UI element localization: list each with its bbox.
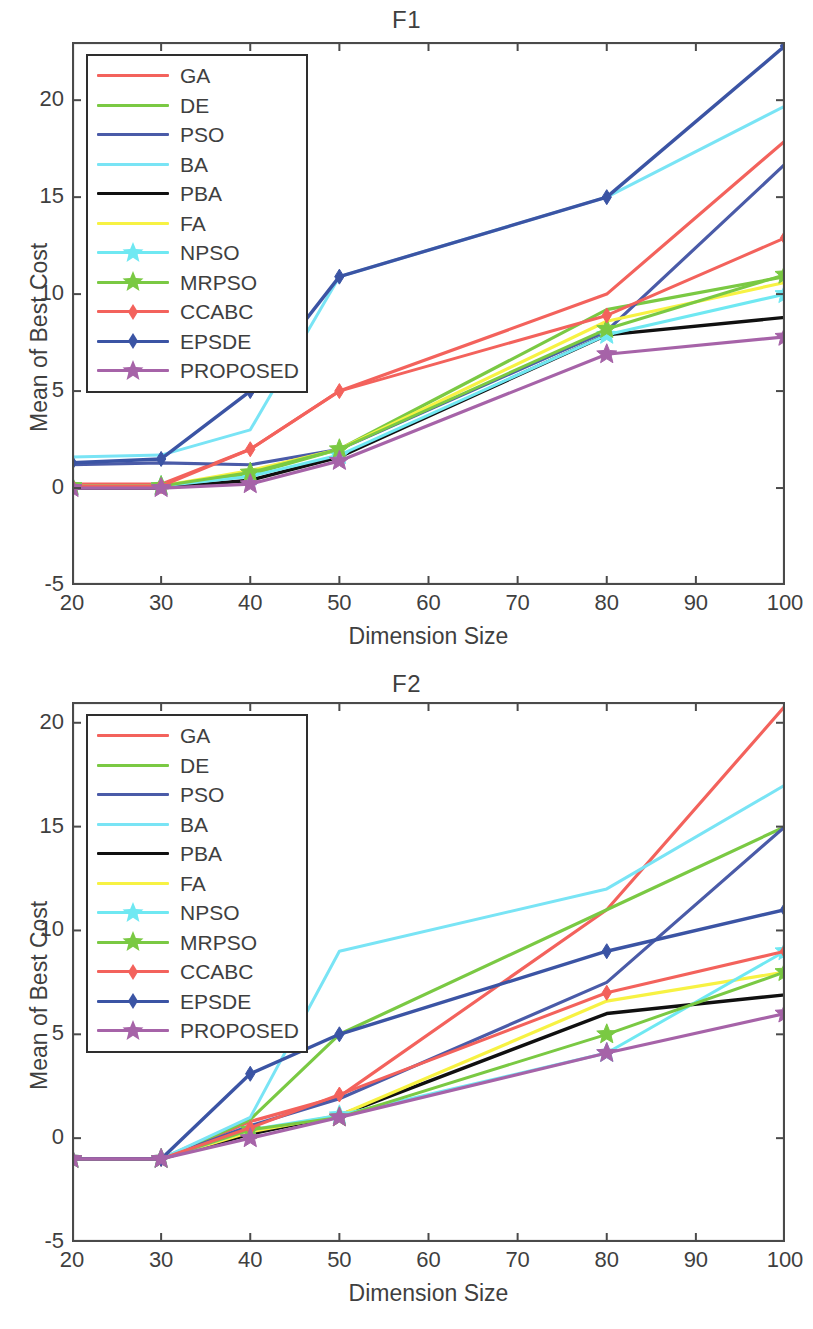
y-axis-tick-label: 15 [14,813,64,839]
legend-label: EPSDE [180,331,251,352]
legend-item-mrpso[interactable]: MRPSO [88,268,306,298]
legend-swatch-proposed [97,360,169,382]
legend-swatch-pba [97,183,169,205]
legend-label: EPSDE [180,991,251,1012]
legend-item-ccabc[interactable]: CCABC [88,297,306,327]
legend-label: DE [180,755,209,776]
star-icon [121,930,145,954]
x-axis-tick-label: 80 [577,590,637,616]
legend-swatch-mrpso [97,931,169,953]
legend-label: GA [180,725,210,746]
legend-item-ga[interactable]: GA [88,61,306,91]
legend-item-fa[interactable]: FA [88,209,306,239]
legend-item-epsde[interactable]: EPSDE [88,987,306,1017]
legend-item-epsde[interactable]: EPSDE [88,327,306,357]
y-axis-label: Mean of Best Cost [26,242,53,431]
x-axis-tick-label: 40 [220,590,280,616]
legend-label: FA [180,873,206,894]
legend-label: NPSO [180,242,240,263]
legend-label: CCABC [180,961,254,982]
legend-item-ga[interactable]: GA [88,721,306,751]
legend-item-mrpso[interactable]: MRPSO [88,928,306,958]
star-icon [121,270,145,294]
legend-item-pba[interactable]: PBA [88,179,306,209]
x-axis-tick-label: 100 [755,590,813,616]
legend-item-ba[interactable]: BA [88,810,306,840]
x-axis-tick-label: 60 [399,590,459,616]
series-marker-ccabc [246,442,255,457]
legend-item-ba[interactable]: BA [88,150,306,180]
star-icon [121,359,145,383]
series-marker-ccabc [335,384,344,399]
legend-label: FA [180,213,206,234]
x-axis-tick-label: 100 [755,1247,813,1273]
legend-label: PSO [180,784,224,805]
legend-item-de[interactable]: DE [88,91,306,121]
legend-swatch-ba [97,813,169,835]
x-axis-tick-label: 20 [42,590,102,616]
star-icon [121,241,145,265]
x-axis-tick-label: 90 [666,1247,726,1273]
legend-swatch-pso [97,124,169,146]
legend-label: DE [180,95,209,116]
legend-swatch-ba [97,153,169,175]
y-axis-tick-label: 0 [14,474,64,500]
legend-swatch-fa [97,872,169,894]
legend-swatch-proposed [97,1020,169,1042]
series-marker-proposed [329,1107,349,1126]
legend-swatch-fa [97,212,169,234]
x-axis-tick-label: 70 [488,590,548,616]
legend-item-pba[interactable]: PBA [88,839,306,869]
series-marker-epsde [602,944,611,959]
chart-title-f2: F2 [0,670,813,698]
x-axis-tick-label: 70 [488,1247,548,1273]
legend-swatch-ga [97,725,169,747]
legend-swatch-de [97,94,169,116]
legend-swatch-npso [97,242,169,264]
y-axis-tick-label: 20 [14,86,64,112]
legend-item-proposed[interactable]: PROPOSED [88,356,306,386]
legend-item-ccabc[interactable]: CCABC [88,957,306,987]
legend-item-npso[interactable]: NPSO [88,238,306,268]
x-axis-tick-label: 60 [399,1247,459,1273]
star-icon [121,901,145,925]
legend-f2: GADEPSOBAPBAFANPSOMRPSOCCABCEPSDEPROPOSE… [86,714,308,1053]
legend-swatch-ccabc [97,301,169,323]
legend-label: GA [180,65,210,86]
series-marker-proposed [597,1043,617,1062]
y-axis-label: Mean of Best Cost [26,901,53,1090]
legend-item-proposed[interactable]: PROPOSED [88,1016,306,1046]
legend-item-pso[interactable]: PSO [88,120,306,150]
x-axis-tick-label: 80 [577,1247,637,1273]
series-marker-ccabc [602,985,611,1000]
legend-swatch-npso [97,902,169,924]
legend-item-fa[interactable]: FA [88,869,306,899]
y-axis-tick-label: 20 [14,709,64,735]
x-axis-tick-label: 50 [309,1247,369,1273]
legend-swatch-pba [97,843,169,865]
star-icon [121,1019,145,1043]
x-axis-tick-label: 40 [220,1247,280,1273]
series-marker-proposed [597,344,617,363]
legend-label: PBA [180,843,222,864]
legend-swatch-ccabc [97,961,169,983]
legend-item-pso[interactable]: PSO [88,780,306,810]
x-axis-label: Dimension Size [72,623,785,650]
legend-label: MRPSO [180,272,257,293]
legend-swatch-epsde [97,330,169,352]
figure-f1: F1 GADEPSOBAPBAFANPSOMRPSOCCABCEPSDEPROP… [0,0,813,664]
legend-item-de[interactable]: DE [88,751,306,781]
diamond-icon [121,960,145,984]
y-axis-tick-label: 15 [14,183,64,209]
legend-label: PBA [180,183,222,204]
legend-label: PROPOSED [180,1020,299,1041]
legend-swatch-mrpso [97,271,169,293]
legend-swatch-epsde [97,990,169,1012]
chart-title-f1: F1 [0,6,813,34]
legend-item-npso[interactable]: NPSO [88,898,306,928]
legend-label: NPSO [180,902,240,923]
series-marker-epsde [602,190,611,205]
diamond-icon [121,300,145,324]
legend-label: BA [180,814,208,835]
x-axis-tick-label: 50 [309,590,369,616]
